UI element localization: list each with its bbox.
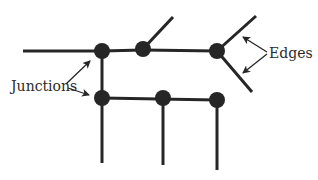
junction-node-n1 — [94, 43, 110, 59]
arrow-edges-to-upper-branch — [243, 37, 267, 52]
junction-node-n5 — [155, 90, 171, 106]
network-diagram: Junctions Edges — [0, 0, 318, 180]
junction-node-n3 — [209, 43, 225, 59]
edges-label: Edges — [269, 45, 313, 61]
arrow-edges-to-lower-branch — [243, 54, 267, 73]
junction-node-n6 — [209, 92, 225, 108]
edge-n3-lower-branch — [217, 51, 252, 92]
junctions-label: Junctions — [9, 78, 77, 94]
junction-node-n4 — [94, 90, 110, 106]
edge-top-n2-n3 — [143, 50, 217, 51]
junction-node-n2 — [135, 41, 151, 57]
